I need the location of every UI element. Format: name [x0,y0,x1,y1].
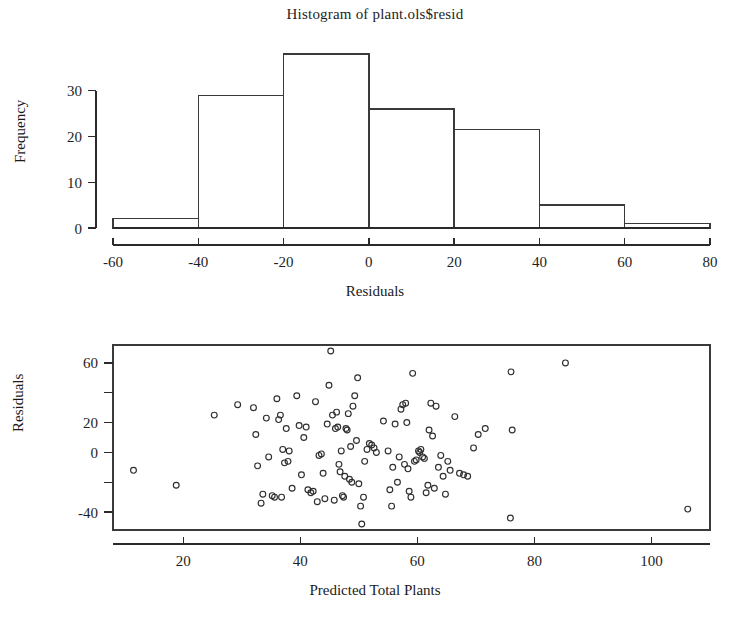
histogram-bars [113,54,710,228]
scatter-point [356,481,362,487]
scatter-point [279,494,285,500]
histogram-x-tick-label: -20 [274,254,294,270]
histogram-x-tick-label: 0 [365,254,373,270]
histogram-bar [113,219,198,228]
histogram-bar [454,130,539,228]
histogram-y-axis-title: Frequency [18,95,38,225]
histogram-y-axis [88,91,96,228]
scatter-point [263,415,269,421]
scatter-point [260,491,266,497]
scatter-point [563,360,569,366]
scatter-point [235,402,241,408]
scatter-point [258,500,264,506]
scatter-point [296,423,302,429]
scatter-point [328,348,334,354]
histogram-x-tick-label: 40 [532,254,547,270]
scatter-point [299,472,305,478]
scatter-point [396,454,402,460]
scatter-point [320,470,326,476]
scatter-point [337,469,343,475]
scatter-point [266,454,272,460]
scatter-point [283,426,289,432]
scatter-point [358,503,364,509]
scatter-point [338,448,344,454]
scatter-y-tick-label: 60 [83,355,98,371]
scatter-point [173,482,179,488]
scatter-point [389,503,395,509]
scatter-point [406,488,412,494]
histogram-x-axis-title: Residuals [0,283,750,300]
scatter-point [475,432,481,438]
scatter-point [405,466,411,472]
scatter-point [211,412,217,418]
scatter-point [350,403,356,409]
scatter-point [412,458,418,464]
scatter-point [352,393,358,399]
scatter-y-tick-label: 20 [83,415,98,431]
scatter-point [508,515,514,521]
scatter-x-tick-label: 40 [293,553,308,569]
histogram-panel: Histogram of plant.ols$resid -60-40-2002… [0,0,750,320]
histogram-x-tick-label: 80 [703,254,718,270]
scatter-point [452,414,458,420]
scatter-point [381,418,387,424]
scatter-point [447,467,453,473]
scatter-point [425,482,431,488]
scatter-point [364,447,370,453]
scatter-point [359,521,365,527]
scatter-x-axis-title: Predicted Total Plants [0,582,750,599]
scatter-point [286,448,292,454]
scatter-point [322,496,328,502]
scatter-point [336,461,342,467]
scatter-point [285,458,291,464]
histogram-x-tick-label: 20 [447,254,462,270]
scatter-point [131,467,137,473]
scatter-x-tick-label: 20 [176,553,191,569]
scatter-point [251,405,257,411]
scatter-plot-frame [113,345,710,530]
scatter-x-tick-label: 100 [640,553,663,569]
scatter-point [314,499,320,505]
scatter-point [361,494,367,500]
scatter-point [255,463,261,469]
scatter-point [301,435,307,441]
scatter-point [387,487,393,493]
scatter-point [344,427,350,433]
scatter-point [430,433,436,439]
scatter-y-tick-label: -40 [78,505,98,521]
histogram-bar [284,54,369,228]
histogram-x-tick-label: -60 [103,254,123,270]
scatter-point [348,444,354,450]
scatter-point [330,412,336,418]
histogram-x-tick-label: -40 [188,254,208,270]
scatter-point [313,399,319,405]
scatter-point [431,485,437,491]
histogram-y-tick-label: 30 [67,83,82,99]
histogram-y-tick-label: 10 [67,175,82,191]
scatter-point [685,506,691,512]
scatter-point [445,458,451,464]
scatter-y-tick-label: 0 [91,445,99,461]
scatter-data-points [131,348,691,527]
scatter-point [436,464,442,470]
scatter-point [423,490,429,496]
scatter-point [294,393,300,399]
histogram-y-tick-label: 0 [75,221,83,237]
scatter-point [410,370,416,376]
scatter-point [443,491,449,497]
scatter-point [303,424,309,430]
scatter-x-tick-label: 80 [527,553,542,569]
scatter-point [509,427,515,433]
scatter-point [421,455,427,461]
scatter-point [289,485,295,491]
scatter-point [408,494,414,500]
scatter-point [426,427,432,433]
scatter-point [362,458,368,464]
histogram-y-tick-label: 20 [67,129,82,145]
scatter-point [324,421,330,427]
histogram-x-axis [113,238,710,245]
scatter-point [395,479,401,485]
scatter-point [385,448,391,454]
scatter-y-axis-title: Residuals [16,370,36,500]
scatter-x-tick-labels: 20406080100 [176,553,663,569]
